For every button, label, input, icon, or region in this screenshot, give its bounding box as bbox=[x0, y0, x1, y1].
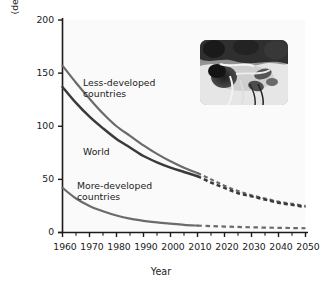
infant-mortality-rate-chart: Infant mortality rate (deaths per 1,000 … bbox=[0, 0, 322, 287]
series-label-world-line1: World bbox=[83, 146, 110, 157]
series-line-2-projection bbox=[198, 226, 306, 229]
series-label-more-developed-line2: countries bbox=[77, 191, 152, 202]
series-line-1-historical bbox=[63, 87, 198, 176]
series-label-more-developed-line1: More-developed bbox=[77, 180, 152, 191]
series-label-world: World bbox=[83, 146, 110, 157]
series-line-0-projection bbox=[198, 173, 306, 206]
series-label-less-developed: Less-developed countries bbox=[83, 77, 155, 100]
series-label-more-developed: More-developed countries bbox=[77, 180, 152, 203]
series-label-less-developed-line2: countries bbox=[83, 88, 155, 99]
infant-photo-inset bbox=[200, 40, 288, 105]
infant-photo-graphic bbox=[200, 40, 288, 105]
series-label-less-developed-line1: Less-developed bbox=[83, 77, 155, 88]
